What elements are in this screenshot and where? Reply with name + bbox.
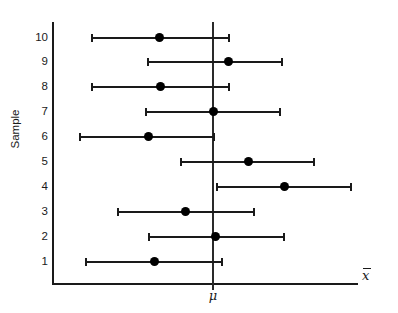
ci-upper-cap — [253, 208, 255, 216]
ci-lower-cap — [117, 208, 119, 216]
interval-row — [0, 206, 398, 218]
sample-mean-dot-1 — [150, 257, 159, 266]
y-axis-title: Sample — [9, 94, 21, 164]
sample-mean-dot-3 — [181, 207, 190, 216]
x-bar-overline — [363, 268, 371, 269]
ci-upper-cap — [350, 183, 352, 191]
ci-lower-cap — [147, 58, 149, 66]
interval-row — [0, 156, 398, 168]
sample-mean-dot-7 — [209, 107, 218, 116]
ci-upper-cap — [228, 83, 230, 91]
interval-row — [0, 131, 398, 143]
confidence-interval-plot: Sample μ x 10987654321 — [0, 0, 398, 313]
ci-upper-cap — [221, 258, 223, 266]
sample-mean-dot-4 — [280, 182, 289, 191]
interval-row — [0, 81, 398, 93]
sample-mean-dot-8 — [156, 82, 165, 91]
ci-lower-cap — [180, 158, 182, 166]
ci-upper-cap — [281, 58, 283, 66]
ci-lower-cap — [148, 233, 150, 241]
ci-lower-cap — [216, 183, 218, 191]
ci-upper-cap — [213, 133, 215, 141]
ci-upper-cap — [279, 108, 281, 116]
ci-lower-cap — [91, 83, 93, 91]
sample-mean-dot-10 — [155, 33, 164, 42]
sample-mean-dot-5 — [244, 157, 253, 166]
interval-row — [0, 231, 398, 243]
ci-upper-cap — [313, 158, 315, 166]
sample-mean-dot-6 — [144, 132, 153, 141]
interval-row — [0, 181, 398, 193]
interval-row — [0, 106, 398, 118]
interval-row — [0, 56, 398, 68]
ci-upper-cap — [283, 233, 285, 241]
sample-mean-dot-9 — [224, 57, 233, 66]
x-axis-title: x — [362, 268, 384, 283]
ci-lower-cap — [145, 108, 147, 116]
interval-row — [0, 32, 398, 44]
sample-mean-dot-2 — [211, 232, 220, 241]
mu-axis-label: μ — [203, 288, 223, 303]
ci-lower-cap — [91, 34, 93, 42]
ci-lower-cap — [85, 258, 87, 266]
ci-line-sample-9 — [147, 61, 283, 63]
x-axis-line — [52, 283, 358, 285]
ci-upper-cap — [228, 34, 230, 42]
ci-lower-cap — [79, 133, 81, 141]
interval-row — [0, 256, 398, 268]
